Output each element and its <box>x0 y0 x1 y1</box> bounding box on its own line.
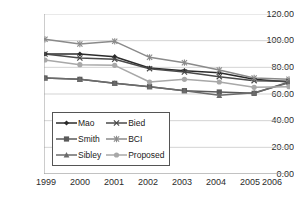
legend-item-proposed: Proposed <box>106 147 164 163</box>
x-axis-tick-label: 2006 <box>252 178 292 187</box>
legend-item-bied: Bied <box>106 115 164 131</box>
legend-swatch-star-icon <box>106 134 127 144</box>
legend-label: Sibley <box>77 150 101 160</box>
legend-swatch-circle-icon <box>106 150 127 160</box>
legend-swatch-square-icon <box>56 134 77 144</box>
legend-item-sibley: Sibley <box>56 147 101 163</box>
legend-item-mao: Mao <box>56 115 101 131</box>
legend-item-smith: Smith <box>56 131 101 147</box>
legend-label: BCI <box>127 134 142 144</box>
legend-label: Smith <box>77 134 100 144</box>
line-chart: 120.00 100.00 80.00 60.00 40.00 20.00 0.… <box>0 0 294 201</box>
legend-swatch-triangle-icon <box>56 150 77 160</box>
legend-swatch-diamond-icon <box>56 118 77 128</box>
legend-item-bci: BCI <box>106 131 164 147</box>
legend-label: Proposed <box>127 150 164 160</box>
legend-swatch-cross-icon <box>106 118 127 128</box>
legend-label: Bied <box>127 118 145 128</box>
legend-label: Mao <box>77 118 95 128</box>
chart-legend: Mao Bied Smith BCI Sibley Proposed <box>52 112 170 166</box>
